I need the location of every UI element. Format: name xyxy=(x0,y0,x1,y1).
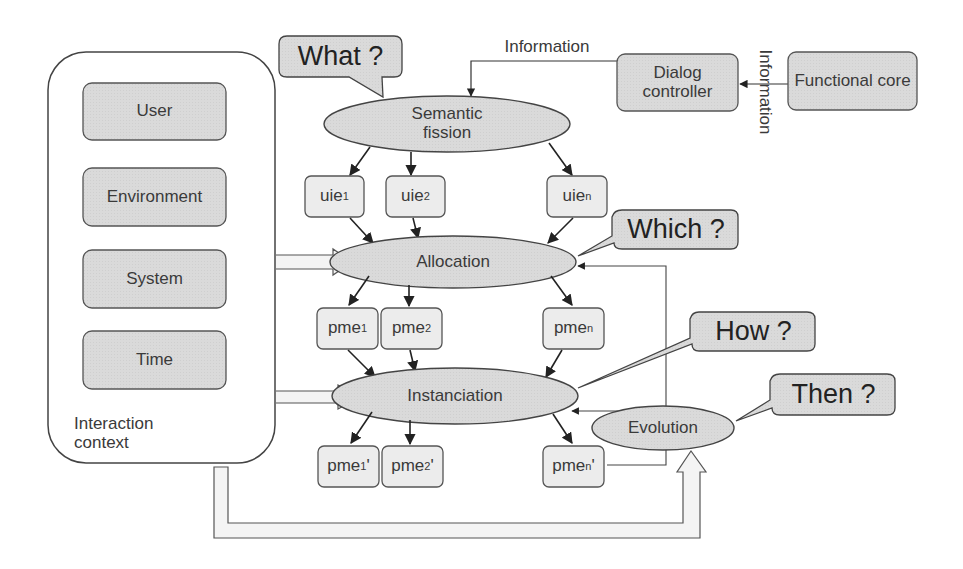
uie-2-base: uie xyxy=(401,187,424,206)
pme-2-prime-mark: ' xyxy=(430,457,433,476)
evolution-label: Evolution xyxy=(592,406,734,450)
what-callout-text: What ? xyxy=(279,36,402,77)
pme-2-prime-label: pme2' xyxy=(382,446,443,487)
how-callout-text: How ? xyxy=(692,312,815,351)
interaction-context-title: Interaction context xyxy=(74,415,153,452)
uie-2-sub: 2 xyxy=(424,190,430,202)
pme-n-base: pme xyxy=(554,319,587,338)
semantic-fission-line1: Semantic xyxy=(412,105,483,124)
dialog-controller-label: Dialog controller xyxy=(617,54,738,111)
context-to-evolution-arrow xyxy=(214,451,706,538)
then-callout-text: Then ? xyxy=(772,374,895,415)
allocation-label: Allocation xyxy=(330,236,576,288)
pme-1-base: pme xyxy=(328,319,361,338)
dialog-controller-line2: controller xyxy=(643,83,713,102)
pme-n-prime-mark: ' xyxy=(591,457,594,476)
instanciation-label: Instanciation xyxy=(332,368,578,424)
uie-1-label: uie1 xyxy=(305,176,364,217)
uie-n-sub: n xyxy=(585,190,591,202)
uie-n-base: uie xyxy=(563,187,586,206)
information-flow-line xyxy=(471,61,617,96)
dialog-controller-line1: Dialog xyxy=(653,64,701,83)
context-environment-label: Environment xyxy=(83,168,226,226)
pme-2-sub: 2 xyxy=(425,322,431,334)
context-time-label: Time xyxy=(83,331,226,389)
pme-1-prime-base: pme xyxy=(327,457,360,476)
context-user-label: User xyxy=(83,83,226,140)
pme-2-prime-base: pme xyxy=(391,457,424,476)
interaction-context-title-line2: context xyxy=(74,434,153,453)
uie2-to-allocation-arrow xyxy=(413,218,418,238)
pme-n-label: pmen xyxy=(543,308,604,349)
uie-1-base: uie xyxy=(320,187,343,206)
pme-n-prime-base: pme xyxy=(552,457,585,476)
uie-1-sub: 1 xyxy=(343,190,349,202)
information-vertical-label: Information xyxy=(754,44,776,140)
context-system-label: System xyxy=(83,250,226,308)
pme-1-label: pme1 xyxy=(317,308,378,349)
functional-core-label: Functional core xyxy=(786,52,919,110)
pme-2-base: pme xyxy=(392,319,425,338)
which-callout-text: Which ? xyxy=(614,210,738,249)
pme-1-sub: 1 xyxy=(361,322,367,334)
semantic-fission-line2: fission xyxy=(423,124,471,143)
uie-2-label: uie2 xyxy=(386,176,445,217)
pme-1-prime-label: pme1' xyxy=(318,446,379,487)
pme-n-prime-label: pmen' xyxy=(543,446,604,487)
pme-n-sub: n xyxy=(587,322,593,334)
interaction-context-title-line1: Interaction xyxy=(74,415,153,434)
uie-n-label: uien xyxy=(547,176,607,217)
pme-2-label: pme2 xyxy=(381,308,442,349)
information-top-label: Information xyxy=(487,36,607,58)
pme-1-prime-mark: ' xyxy=(366,457,369,476)
semantic-fission-label: Semantic fission xyxy=(324,96,570,152)
